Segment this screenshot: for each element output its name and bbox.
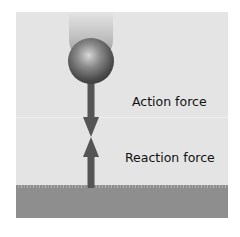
force-arrows bbox=[16, 12, 228, 218]
reaction-force-label: Reaction force bbox=[125, 150, 215, 165]
action-force-arrow bbox=[83, 82, 99, 137]
ball bbox=[68, 38, 114, 84]
action-force-label: Action force bbox=[132, 94, 207, 109]
diagram-panel: Action force Reaction force bbox=[16, 12, 228, 218]
reaction-force-arrow bbox=[83, 137, 99, 188]
